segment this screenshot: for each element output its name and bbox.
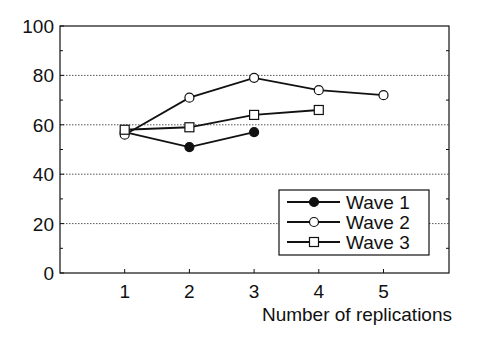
y-tick-label: 0 xyxy=(43,263,54,284)
x-tick-label: 3 xyxy=(249,281,260,302)
legend-label: Wave 3 xyxy=(346,232,410,253)
x-tick-label: 5 xyxy=(378,281,389,302)
data-point xyxy=(185,143,194,152)
y-tick-label: 100 xyxy=(22,16,54,37)
data-point xyxy=(314,86,323,95)
data-point xyxy=(379,91,388,100)
series-lines xyxy=(120,73,388,151)
y-tick-label: 60 xyxy=(33,115,54,136)
data-point xyxy=(310,218,319,227)
data-point xyxy=(185,123,194,132)
data-point xyxy=(120,125,129,134)
x-tick-label: 1 xyxy=(119,281,130,302)
data-point xyxy=(310,198,319,207)
y-tick-label: 80 xyxy=(33,65,54,86)
line-chart: 020406080100 12345 Number of replication… xyxy=(0,0,477,341)
legend-label: Wave 2 xyxy=(346,212,410,233)
data-point xyxy=(310,238,319,247)
x-tick-label: 2 xyxy=(184,281,195,302)
x-tick-label: 4 xyxy=(314,281,325,302)
x-axis: 12345 xyxy=(119,269,388,302)
x-axis-label: Number of replications xyxy=(262,304,452,325)
legend: Wave 1Wave 2Wave 3 xyxy=(279,190,429,255)
legend-label: Wave 1 xyxy=(346,192,410,213)
data-point xyxy=(185,93,194,102)
y-tick-label: 40 xyxy=(33,164,54,185)
y-tick-label: 20 xyxy=(33,214,54,235)
data-point xyxy=(250,110,259,119)
data-point xyxy=(250,128,259,137)
data-point xyxy=(314,105,323,114)
data-point xyxy=(250,73,259,82)
